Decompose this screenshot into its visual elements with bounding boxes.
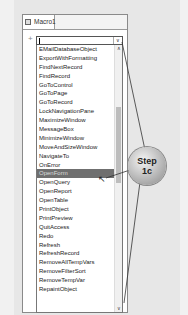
callout-line2: 1c — [128, 166, 166, 176]
step-callout-badge: Step 1c — [128, 147, 166, 185]
callout-line1: Step — [128, 156, 166, 166]
